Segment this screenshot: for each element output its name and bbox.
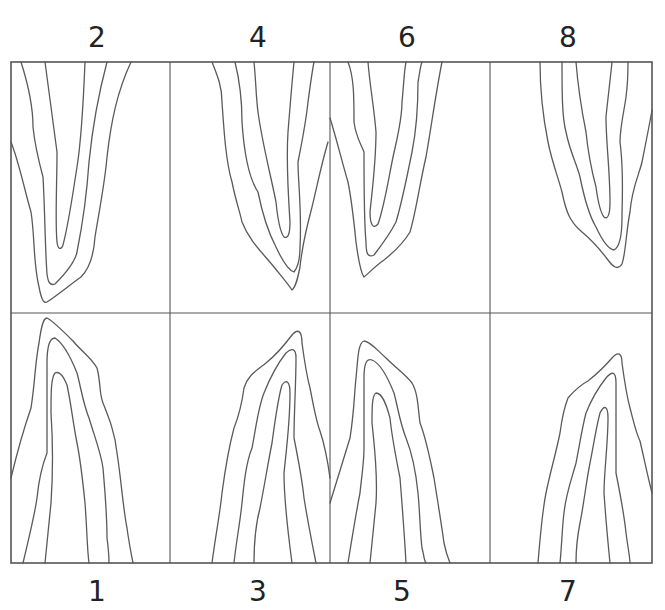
panel-3 bbox=[212, 331, 330, 563]
panel-2 bbox=[11, 62, 131, 302]
inner-contour bbox=[576, 408, 610, 563]
outer-contour bbox=[11, 318, 133, 563]
middle-contour bbox=[235, 62, 314, 272]
middle-contour bbox=[560, 373, 630, 563]
inner-contour bbox=[45, 62, 85, 248]
panel-5 bbox=[330, 341, 450, 563]
panel-6 bbox=[330, 62, 442, 277]
inner-contour bbox=[45, 373, 89, 564]
outer-contour bbox=[538, 354, 652, 563]
inner-contour bbox=[576, 62, 612, 218]
outer-contour bbox=[540, 62, 652, 267]
label-7: 7 bbox=[538, 576, 598, 608]
panel-7 bbox=[538, 354, 652, 563]
panel-8 bbox=[540, 62, 652, 267]
panel-4 bbox=[212, 62, 328, 290]
label-3: 3 bbox=[228, 576, 288, 608]
middle-contour bbox=[23, 338, 109, 563]
label-1: 1 bbox=[67, 576, 127, 608]
tooth-contour-diagram bbox=[0, 0, 665, 610]
label-5: 5 bbox=[372, 576, 432, 608]
panel-1 bbox=[11, 318, 133, 563]
inner-contour bbox=[368, 62, 406, 226]
inner-contour bbox=[254, 62, 294, 237]
outer-contour bbox=[330, 62, 442, 277]
middle-contour bbox=[348, 360, 426, 563]
outer-contour bbox=[330, 341, 450, 563]
